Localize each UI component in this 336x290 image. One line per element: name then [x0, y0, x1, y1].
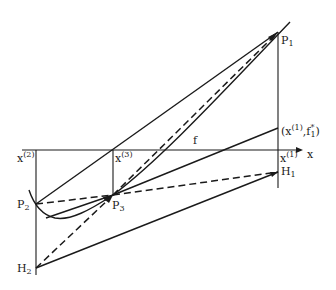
- label-x3: x(3): [115, 150, 133, 165]
- label-p3: P3: [112, 199, 125, 213]
- diagram-canvas: P1 P2 P3 H1 H2 x(2) x(3) x(1) x f (x(1),…: [0, 0, 336, 290]
- arrow-at-h1-icon: [270, 172, 278, 177]
- label-h1: H1: [281, 165, 296, 179]
- label-x1-f1star: (x(1),f*1): [281, 123, 320, 139]
- line-h2-h1: [36, 172, 278, 268]
- label-p2: P2: [17, 198, 30, 212]
- label-x1: x(1): [280, 150, 298, 165]
- label-p1: P1: [281, 34, 294, 48]
- label-x-axis: x: [307, 148, 314, 161]
- dashed-p3-p1: [113, 36, 274, 195]
- label-h2: H2: [17, 262, 32, 276]
- label-x2: x(2): [17, 150, 35, 165]
- secant-p2-p1: [36, 32, 278, 204]
- label-curve-f: f: [193, 134, 198, 147]
